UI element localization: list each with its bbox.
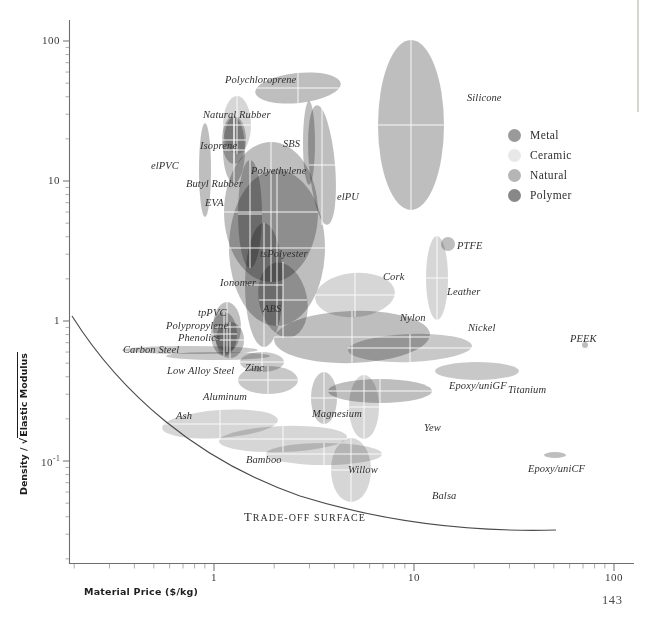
bubble-ptfe <box>441 237 455 251</box>
legend-item-ceramic: Ceramic <box>508 146 572 164</box>
legend-item-metal: Metal <box>508 126 572 144</box>
x-tick-label-0: 1 <box>211 571 217 583</box>
material-label-yew: Yew <box>424 423 441 434</box>
material-label-elpu: elPU <box>337 192 359 203</box>
bubble-titanium <box>435 362 519 380</box>
legend-item-polymer: Polymer <box>508 186 572 204</box>
x-axis-title: Material Price ($/kg) <box>84 586 198 597</box>
material-label-epoxy-unicf: Epoxy/uniCF <box>528 464 585 475</box>
y-axis-title-radicand: Elastic Modulus <box>17 352 29 438</box>
material-label-zinc: Zinc <box>245 363 264 374</box>
y-axis-title-container: Density / √Elastic Modulus <box>13 315 31 495</box>
y-axis-ticks <box>63 41 69 559</box>
material-label-sbs: SBS <box>283 139 300 150</box>
legend-label-metal: Metal <box>530 129 559 141</box>
legend-swatch-metal-icon <box>508 129 521 142</box>
material-label-cork: Cork <box>383 272 404 283</box>
material-label-natural-rubber: Natural Rubber <box>203 110 271 121</box>
y-axis-title-prefix: Density / <box>18 444 29 495</box>
material-label-epoxy-unigf: Epoxy/uniGF <box>449 381 507 392</box>
material-label-nickel: Nickel <box>468 323 495 334</box>
material-label-tppvc: tpPVC <box>198 308 227 319</box>
material-label-bamboo: Bamboo <box>246 455 282 466</box>
material-label-elpvc: elPVC <box>151 161 179 172</box>
material-label-tspolyester: tsPolyester <box>260 249 308 260</box>
material-label-ionomer: Ionomer <box>220 278 256 289</box>
tradeoff-surface-caption: TRADE-OFF SURFACE <box>244 510 366 525</box>
ashby-chart-figure: PolychloropreneNatural RubberIsopreneelP… <box>0 0 646 630</box>
bubble-epoxy-unicf <box>544 452 566 458</box>
material-label-ash: Ash <box>176 411 192 422</box>
page-edge-mark <box>637 0 639 112</box>
legend: MetalCeramicNaturalPolymer <box>508 126 572 206</box>
material-label-low-alloy-steel: Low Alloy Steel <box>167 366 234 377</box>
legend-label-natural: Natural <box>530 169 567 181</box>
legend-swatch-polymer-icon <box>508 189 521 202</box>
legend-swatch-natural-icon <box>508 169 521 182</box>
material-label-willow: Willow <box>348 465 378 476</box>
legend-item-natural: Natural <box>508 166 572 184</box>
material-label-nylon: Nylon <box>400 313 426 324</box>
material-label-silicone: Silicone <box>467 93 502 104</box>
tradeoff-caption-initial: T <box>244 510 253 524</box>
x-tick-label-2: 100 <box>605 571 623 583</box>
material-label-butyl-rubber: Butyl Rubber <box>186 179 243 190</box>
material-label-leather: Leather <box>447 287 480 298</box>
material-label-titanium: Titanium <box>508 385 546 396</box>
material-label-polypropylene: Polypropylene <box>166 321 228 332</box>
material-label-polyethylene: Polyethylene <box>251 166 306 177</box>
material-label-phenolics: Phenolics <box>178 333 220 344</box>
x-axis-ticks <box>74 564 614 571</box>
page-number: 143 <box>602 593 623 608</box>
bubble-layer <box>122 40 588 502</box>
material-label-peek: PEEK <box>570 334 597 345</box>
y-tick-exponent: -1 <box>53 454 60 463</box>
legend-swatch-ceramic-icon <box>508 149 521 162</box>
radical-sign: √ <box>18 438 29 444</box>
legend-label-polymer: Polymer <box>530 189 572 201</box>
y-axis-title: Density / √Elastic Modulus <box>18 352 29 495</box>
material-label-isoprene: Isoprene <box>200 141 237 152</box>
material-label-ptfe: PTFE <box>457 241 482 252</box>
material-label-balsa: Balsa <box>432 491 456 502</box>
material-label-carbon-steel: Carbon Steel <box>123 345 179 356</box>
plot-canvas <box>0 0 646 630</box>
y-tick-label-1: 10 <box>48 174 60 186</box>
y-tick-label-3: 10-1 <box>41 454 60 468</box>
y-tick-label-0: 100 <box>42 34 60 46</box>
tradeoff-caption-rest: RADE-OFF SURFACE <box>253 512 366 523</box>
y-tick-label-2: 1 <box>54 314 60 326</box>
material-label-eva: EVA <box>205 198 224 209</box>
material-label-magnesium: Magnesium <box>312 409 362 420</box>
y-tick-mantissa: 10 <box>41 456 53 468</box>
material-label-polychloroprene: Polychloroprene <box>225 75 296 86</box>
x-tick-label-1: 10 <box>408 571 420 583</box>
legend-label-ceramic: Ceramic <box>530 149 572 161</box>
material-label-abs: ABS <box>263 304 281 315</box>
material-label-aluminum: Aluminum <box>203 392 247 403</box>
